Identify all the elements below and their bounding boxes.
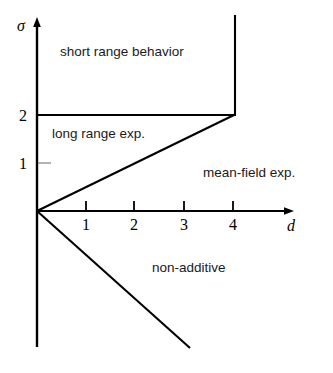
x-tick-label-3: 3 <box>180 216 188 233</box>
y-tick-label-1: 1 <box>19 155 27 172</box>
y-axis-arrowhead <box>33 17 41 27</box>
x-tick-label-1: 1 <box>82 216 90 233</box>
phase-diagram-figure: σ d 2 1 1 2 3 4 short range behavior lon… <box>0 0 333 373</box>
x-axis-arrowhead <box>284 207 294 214</box>
region-label-short-range-behavior: short range behavior <box>60 44 184 59</box>
region-label-mean-field-exp: mean-field exp. <box>203 165 295 180</box>
region-label-long-range-exp: long range exp. <box>52 126 145 141</box>
x-axis-label: d <box>287 217 296 234</box>
y-tick-label-2: 2 <box>19 107 27 124</box>
region-label-non-additive: non-additive <box>152 260 226 275</box>
phase-diagram-canvas: σ d 2 1 1 2 3 4 short range behavior lon… <box>0 0 333 373</box>
x-tick-label-4: 4 <box>229 216 237 233</box>
y-axis-label: σ <box>17 17 26 34</box>
x-tick-label-2: 2 <box>130 216 138 233</box>
boundary-non-additive <box>37 211 190 348</box>
